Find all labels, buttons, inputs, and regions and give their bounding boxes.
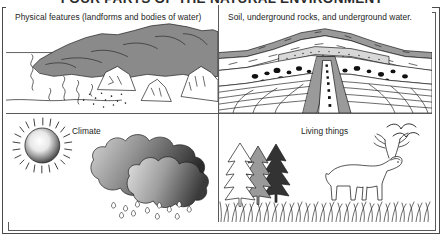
- panel-soil-underground: Soil, underground rocks, and underground…: [219, 5, 432, 114]
- raindrops: [112, 201, 192, 219]
- panel-physical-features-label: Physical features (landforms and bodies …: [15, 12, 201, 22]
- diagram-sheet: FOUR PARTS OF THE NATURAL ENVIRONMENT: [0, 0, 444, 242]
- deer-back-leg: [362, 187, 367, 200]
- grass: [220, 202, 430, 222]
- mountain: [33, 24, 218, 78]
- diagram-title: FOUR PARTS OF THE NATURAL ENVIRONMENT: [0, 0, 444, 3]
- panel-physical-features: Physical features (landforms and bodies …: [6, 5, 219, 114]
- panel-soil-underground-label: Soil, underground rocks, and underground…: [228, 12, 412, 22]
- panel-grid: Physical features (landforms and bodies …: [6, 5, 432, 222]
- birds: [387, 124, 419, 137]
- deer-antlers: [374, 133, 409, 158]
- deer: [326, 133, 409, 200]
- climate-illustration: [6, 114, 218, 222]
- pine-tree-white: [224, 143, 256, 206]
- panel-climate-label: Climate: [72, 126, 101, 136]
- sun: [25, 128, 60, 163]
- panel-climate: Climate: [6, 114, 219, 222]
- panel-living-things: Living things: [219, 114, 432, 222]
- rock-outcrop-right: [141, 79, 171, 101]
- panel-living-things-label: Living things: [301, 126, 348, 136]
